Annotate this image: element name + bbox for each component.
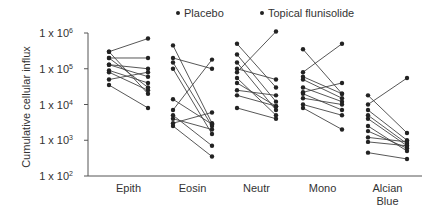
flunisolide-point: [274, 117, 278, 121]
flunisolide-point: [210, 57, 214, 61]
y-tick-label: 1 x 103: [39, 134, 73, 146]
placebo-point: [171, 97, 175, 101]
group-alcian-blue: [366, 76, 409, 161]
placebo-point: [107, 49, 111, 53]
flunisolide-point: [340, 42, 344, 46]
placebo-point: [235, 106, 239, 110]
group-eosin: [171, 43, 214, 159]
x-category-label: Eosin: [179, 182, 207, 194]
placebo-point: [171, 60, 175, 64]
placebo-point: [235, 81, 239, 85]
placebo-point: [366, 108, 370, 112]
placebo-point: [235, 70, 239, 74]
flunisolide-point: [274, 29, 278, 33]
placebo-point: [301, 106, 305, 110]
placebo-point: [366, 135, 370, 139]
placebo-point: [301, 85, 305, 89]
group-epith: [107, 36, 150, 110]
flunisolide-point: [210, 127, 214, 131]
placebo-point: [366, 140, 370, 144]
flunisolide-point: [210, 132, 214, 136]
flunisolide-point: [146, 106, 150, 110]
placebo-point: [235, 60, 239, 64]
placebo-point: [171, 56, 175, 60]
legend-entry: Topical flunisolide: [268, 7, 354, 19]
flunisolide-point: [340, 127, 344, 131]
placebo-point: [366, 117, 370, 121]
placebo-point: [301, 70, 305, 74]
flunisolide-point: [274, 104, 278, 108]
placebo-point: [171, 43, 175, 47]
flunisolide-point: [210, 122, 214, 126]
flunisolide-point: [405, 144, 409, 148]
flunisolide-point: [274, 85, 278, 89]
x-axis: EpithEosinNeutrMonoAlcianBlue: [88, 176, 422, 207]
placebo-point: [107, 83, 111, 87]
y-tick-label: 1 x 106: [39, 27, 73, 39]
x-category-label: Mono: [309, 182, 337, 194]
placebo-point: [301, 47, 305, 51]
y-tick-label: 1 x 102: [39, 170, 73, 182]
flunisolide-point: [274, 77, 278, 81]
flunisolide-point: [340, 102, 344, 106]
flunisolide-point: [340, 92, 344, 96]
flunisolide-point: [340, 108, 344, 112]
flunisolide-point: [146, 88, 150, 92]
flunisolide-point: [146, 74, 150, 78]
x-category-label: Neutr: [243, 182, 270, 194]
placebo-point: [301, 92, 305, 96]
flunisolide-point: [274, 93, 278, 97]
placebo-point: [301, 96, 305, 100]
placebo-point: [171, 108, 175, 112]
placebo-point: [235, 42, 239, 46]
flunisolide-point: [340, 113, 344, 117]
group-neutr: [235, 29, 278, 121]
placebo-point: [107, 56, 111, 60]
placebo-point: [366, 124, 370, 128]
placebo-point: [107, 62, 111, 66]
legend-entry: Placebo: [184, 7, 224, 19]
flunisolide-point: [146, 56, 150, 60]
placebo-point: [107, 70, 111, 74]
plot-area: [107, 29, 409, 161]
placebo-point: [235, 93, 239, 97]
placebo-point: [366, 129, 370, 133]
flunisolide-point: [405, 140, 409, 144]
flunisolide-point: [274, 99, 278, 103]
x-category-label: Epith: [116, 182, 141, 194]
flunisolide-point: [274, 108, 278, 112]
y-tick-label: 1 x 104: [39, 99, 73, 111]
group-mono: [301, 42, 344, 132]
placebo-point: [107, 77, 111, 81]
flunisolide-point: [146, 81, 150, 85]
flunisolide-point: [146, 70, 150, 74]
flunisolide-point: [210, 154, 214, 158]
flunisolide-point: [146, 36, 150, 40]
flunisolide-point: [210, 110, 214, 114]
flunisolide-point: [210, 67, 214, 71]
flunisolide-point: [210, 144, 214, 148]
legend-marker: [176, 11, 180, 15]
x-category-label: AlcianBlue: [373, 182, 403, 207]
placebo-point: [366, 102, 370, 106]
placebo-point: [366, 93, 370, 97]
placebo-point: [301, 77, 305, 81]
chart: PlaceboTopical flunisolide 1 x 1061 x 10…: [0, 0, 433, 216]
y-tick-label: 1 x 105: [39, 63, 73, 75]
placebo-point: [171, 67, 175, 71]
y-axis-label: Cumulative cellular influx: [20, 46, 32, 168]
placebo-point: [235, 76, 239, 80]
legend: PlaceboTopical flunisolide: [176, 7, 354, 19]
flunisolide-point: [405, 76, 409, 80]
flunisolide-point: [405, 131, 409, 135]
flunisolide-point: [405, 157, 409, 161]
placebo-point: [171, 117, 175, 121]
placebo-point: [235, 52, 239, 56]
y-axis: 1 x 1061 x 1051 x 1041 x 1031 x 102: [39, 27, 88, 182]
placebo-point: [171, 124, 175, 128]
placebo-point: [366, 150, 370, 154]
flunisolide-point: [340, 81, 344, 85]
placebo-point: [235, 88, 239, 92]
legend-marker: [260, 11, 264, 15]
